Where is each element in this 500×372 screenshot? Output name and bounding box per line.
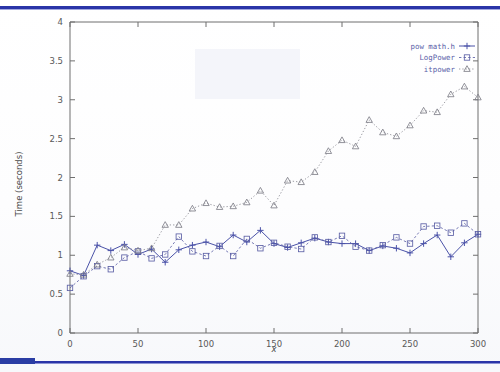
data-point-marker	[203, 239, 209, 245]
data-point-marker	[464, 43, 470, 49]
data-point-marker	[393, 245, 399, 251]
x-tick-label: 200	[334, 339, 350, 349]
legend-label-itpower: itpower	[424, 65, 456, 74]
data-point-marker	[176, 222, 182, 228]
data-point-marker	[108, 254, 114, 260]
data-point-marker	[312, 169, 318, 175]
legend-label-logpower: LogPower	[419, 53, 455, 62]
y-tick-label: 0	[58, 328, 63, 338]
y-tick-label: 2	[58, 173, 63, 183]
y-tick-label: 0.5	[49, 289, 63, 299]
data-point-marker	[380, 129, 386, 135]
x-tick-label: 50	[133, 339, 144, 349]
data-point-marker	[108, 247, 114, 253]
y-tick-label: 1	[58, 250, 63, 260]
data-point-marker	[420, 240, 426, 246]
y-tick-label: 4	[58, 17, 63, 27]
y-axis-title: Time (seconds)	[14, 152, 24, 218]
line-chart: 00.511.522.533.54050100150200250300 pow …	[0, 14, 500, 359]
x-tick-label: 100	[198, 339, 214, 349]
top-accent-rule-hairline	[0, 9, 500, 10]
x-axis-title: x	[270, 344, 277, 354]
y-tick-label: 3.5	[49, 56, 63, 66]
chart-legend: pow math.hLogPoweritpower	[411, 42, 476, 74]
data-point-marker	[203, 200, 209, 206]
bottom-accent-rule-hairline	[0, 363, 500, 364]
data-point-marker	[189, 242, 195, 248]
legend-label-pow-math-h: pow math.h	[411, 42, 456, 51]
data-point-marker	[162, 222, 168, 228]
watermark-smudge	[195, 49, 300, 99]
data-point-marker	[434, 232, 440, 238]
data-point-marker	[271, 202, 277, 208]
bottom-accent-tab	[0, 358, 35, 364]
data-point-marker	[339, 240, 345, 246]
y-tick-label: 2.5	[49, 134, 63, 144]
data-point-marker	[464, 66, 470, 72]
data-point-marker	[434, 109, 440, 115]
series-logpower	[67, 221, 480, 291]
x-tick-label: 300	[470, 339, 486, 349]
y-tick-label: 3	[58, 95, 63, 105]
data-point-marker	[230, 203, 236, 209]
data-point-marker	[284, 177, 290, 183]
series-pow-math-h	[67, 227, 481, 278]
data-point-marker	[407, 250, 413, 256]
x-tick-label: 250	[402, 339, 418, 349]
data-point-marker	[298, 179, 304, 185]
data-point-marker	[257, 187, 263, 193]
chart-series-layer	[67, 83, 481, 290]
x-tick-label: 0	[67, 339, 72, 349]
data-point-marker	[94, 242, 100, 248]
chart-figure: 00.511.522.533.54050100150200250300 pow …	[0, 14, 500, 359]
y-tick-label: 1.5	[49, 211, 63, 221]
data-point-marker	[420, 107, 426, 113]
slide-canvas: 00.511.522.533.54050100150200250300 pow …	[0, 0, 500, 372]
data-point-marker	[339, 137, 345, 143]
data-point-marker	[298, 240, 304, 246]
data-point-marker	[366, 247, 372, 253]
